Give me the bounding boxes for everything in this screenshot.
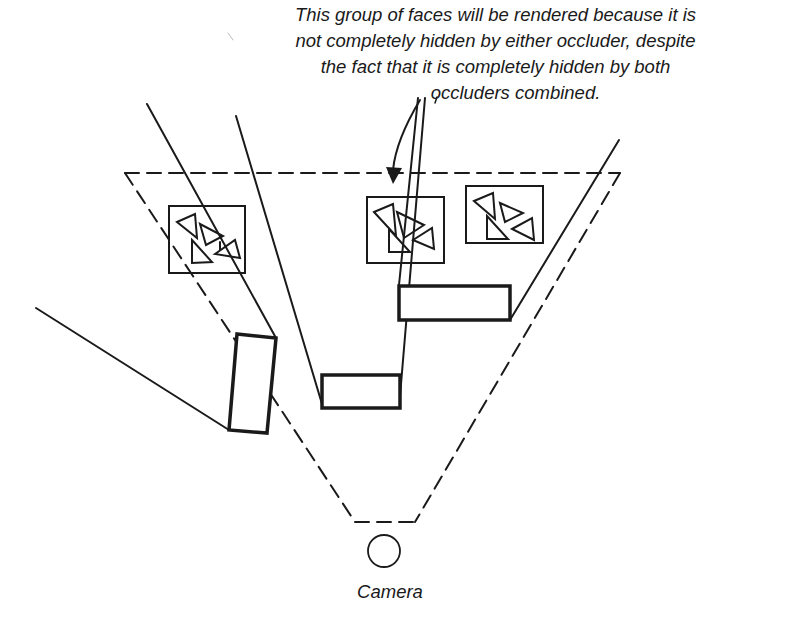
occlusion-diagram	[0, 0, 791, 621]
center-occluder	[322, 375, 400, 408]
view-frustum	[125, 173, 620, 522]
right-face-group	[466, 186, 543, 243]
camera-label: Camera	[330, 581, 450, 603]
camera-icon	[368, 535, 400, 567]
left-occluder	[229, 334, 276, 433]
right-occluder	[399, 286, 510, 320]
